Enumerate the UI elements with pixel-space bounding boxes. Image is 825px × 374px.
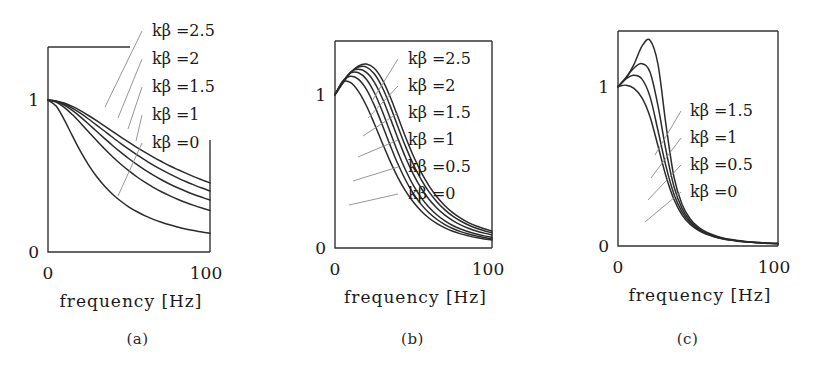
series-label-value: =2.5 <box>432 49 471 68</box>
series-label-symbol: kβ <box>408 130 427 149</box>
y-tick-1: 1 <box>315 85 326 105</box>
series-label-symbol: kβ <box>408 49 427 68</box>
series-label-value: =0.5 <box>714 155 753 174</box>
series-label-value: =0 <box>432 184 456 203</box>
series-label: kβ=0 <box>690 182 738 201</box>
series-label-value: =1.5 <box>432 103 471 122</box>
y-tick-1: 1 <box>598 77 609 97</box>
series-label-symbol: kβ <box>408 157 427 176</box>
series-label-symbol: kβ <box>408 184 427 203</box>
plot-c: 100100frequency [Hz]kβ=1.5kβ=1kβ=0.5kβ=0 <box>550 0 825 320</box>
panel-a-caption: (a) <box>0 330 275 348</box>
panel-a: 100100frequency [Hz]kβ=2.5kβ=2kβ=1.5kβ=1… <box>0 0 275 374</box>
x-tick-100: 100 <box>758 257 790 277</box>
series-label: kβ=1 <box>152 105 200 124</box>
series-label: kβ=1.5 <box>690 101 753 120</box>
panel-c: 100100frequency [Hz]kβ=1.5kβ=1kβ=0.5kβ=0… <box>550 0 825 374</box>
series-label-symbol: kβ <box>690 101 709 120</box>
x-tick-0: 0 <box>43 263 54 283</box>
series-label: kβ=1.5 <box>408 103 471 122</box>
series-label-value: =1.5 <box>176 77 215 96</box>
leader-line <box>645 192 681 222</box>
series-label-symbol: kβ <box>152 49 171 68</box>
series-label: kβ=1.5 <box>152 77 215 96</box>
x-axis-label: frequency [Hz] <box>344 287 487 307</box>
leader-line <box>136 115 142 141</box>
series-label-value: =0 <box>714 182 738 201</box>
series-label: kβ=2 <box>408 76 456 95</box>
panel-c-caption: (c) <box>550 330 825 348</box>
x-axis-label: frequency [Hz] <box>629 285 772 305</box>
series-label: kβ=1 <box>690 128 738 147</box>
series-label: kβ=0 <box>408 184 456 203</box>
plot-a-content: 100100frequency [Hz]kβ=2.5kβ=2kβ=1.5kβ=1… <box>28 21 222 311</box>
series-label-value: =1 <box>432 130 456 149</box>
series-label-value: =0 <box>176 133 200 152</box>
plot-b-content: 100100frequency [Hz]kβ=2.5kβ=2kβ=1.5kβ=1… <box>315 41 504 307</box>
series-label-value: =1 <box>714 128 738 147</box>
series-label-value: =0.5 <box>432 157 471 176</box>
leader-line <box>105 31 142 107</box>
series-label-symbol: kβ <box>408 103 427 122</box>
series-label-symbol: kβ <box>152 105 171 124</box>
series-label: kβ=0.5 <box>690 155 753 174</box>
series-label-symbol: kβ <box>690 182 709 201</box>
series-label-symbol: kβ <box>690 155 709 174</box>
series-label: kβ=1 <box>408 130 456 149</box>
series-label-value: =2 <box>432 76 456 95</box>
series-label-value: =2.5 <box>176 21 215 40</box>
plot-c-content: 100100frequency [Hz]kβ=1.5kβ=1kβ=0.5kβ=0 <box>598 31 790 305</box>
series-label-value: =1 <box>176 105 200 124</box>
figure-root: 100100frequency [Hz]kβ=2.5kβ=2kβ=1.5kβ=1… <box>0 0 825 374</box>
series-label: kβ=2 <box>152 49 200 68</box>
leader-line <box>353 167 398 181</box>
series-label: kβ=0.5 <box>408 157 471 176</box>
y-tick-0: 0 <box>315 238 326 258</box>
leader-line <box>651 138 681 178</box>
series-label: kβ=2.5 <box>152 21 215 40</box>
series-label: kβ=2.5 <box>408 49 471 68</box>
x-tick-0: 0 <box>330 259 341 279</box>
leader-line <box>349 194 398 205</box>
leader-line <box>118 59 142 118</box>
panel-b-caption: (b) <box>275 330 550 348</box>
series-label-symbol: kβ <box>152 77 171 96</box>
series-label-symbol: kβ <box>152 21 171 40</box>
x-tick-100: 100 <box>472 259 504 279</box>
series-label: kβ=0 <box>152 133 200 152</box>
series-label-symbol: kβ <box>690 128 709 147</box>
y-tick-1: 1 <box>28 90 39 110</box>
series-label-value: =1.5 <box>714 101 753 120</box>
plot-b: 100100frequency [Hz]kβ=2.5kβ=2kβ=1.5kβ=1… <box>275 0 550 320</box>
x-tick-0: 0 <box>613 257 624 277</box>
series-label-value: =2 <box>176 49 200 68</box>
series-curve <box>618 64 778 244</box>
y-tick-0: 0 <box>28 242 39 262</box>
x-axis-label: frequency [Hz] <box>60 291 203 311</box>
series-label-symbol: kβ <box>152 133 171 152</box>
x-tick-100: 100 <box>190 263 222 283</box>
plot-a: 100100frequency [Hz]kβ=2.5kβ=2kβ=1.5kβ=1… <box>0 0 275 320</box>
series-label-symbol: kβ <box>408 76 427 95</box>
y-tick-0: 0 <box>598 236 609 256</box>
panel-b: 100100frequency [Hz]kβ=2.5kβ=2kβ=1.5kβ=1… <box>275 0 550 374</box>
